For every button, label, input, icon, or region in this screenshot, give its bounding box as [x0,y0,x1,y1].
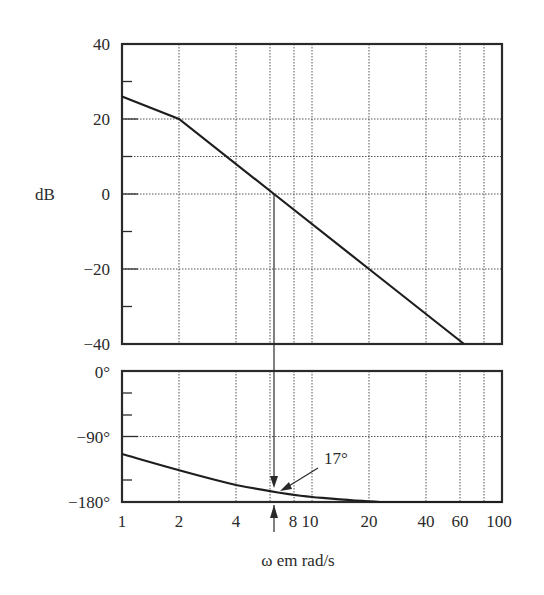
mag-tick-40: 40 [93,35,110,54]
up-arrow-icon [270,505,278,518]
down-arrow-icon [270,476,278,488]
phase-tick-0: 0° [95,363,110,382]
x-tick-4: 4 [232,512,241,531]
x-axis-label: ω em rad/s [261,551,335,570]
phase-tick-neg90: −90° [77,428,110,447]
x-tick-1: 1 [118,512,127,531]
mag-tick-0: 0 [102,185,111,204]
mag-tick-20: 20 [93,110,110,129]
x-tick-10: 10 [302,512,319,531]
magnitude-curve [122,97,464,345]
x-tick-8: 8 [289,512,298,531]
x-tick-100: 100 [486,512,512,531]
mag-y-axis-label: dB [35,185,55,204]
pointer-arrow-icon [280,482,292,491]
x-tick-40: 40 [418,512,435,531]
x-tick-60: 60 [452,512,469,531]
magnitude-minor-ticks [122,82,138,307]
bode-plot: 40 20 0 −20 −40 dB 0° [0,0,544,595]
mag-tick-neg40: −40 [83,335,110,354]
magnitude-plot: 40 20 0 −20 −40 dB [35,35,502,354]
x-tick-20: 20 [361,512,378,531]
phase-margin-label: 17° [324,449,348,468]
phase-minor-ticks [122,393,138,480]
phase-tick-neg180: −180° [68,493,110,512]
x-tick-2: 2 [175,512,184,531]
mag-tick-neg20: −20 [83,260,110,279]
x-axis-labels: 1 2 4 8 10 20 40 60 100 ω em rad/s [118,512,512,570]
crossover-annotation: 17° [270,194,348,532]
